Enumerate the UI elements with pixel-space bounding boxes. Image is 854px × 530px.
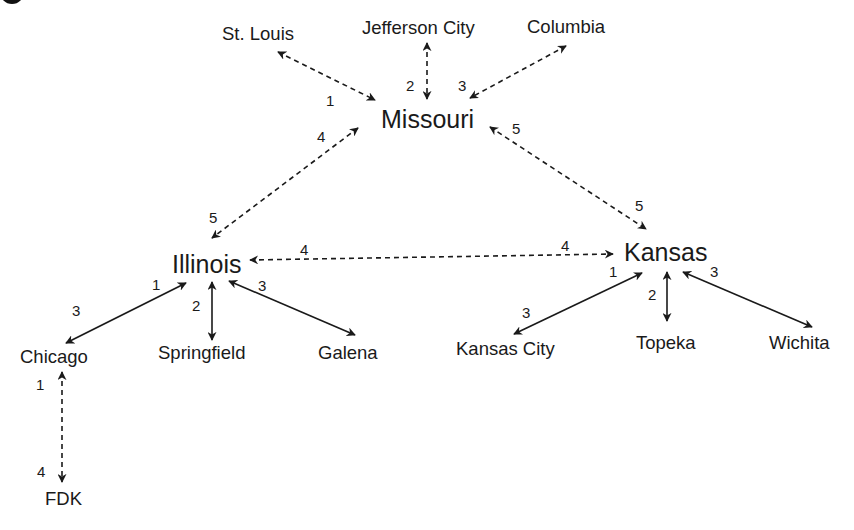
edge-number: 4 bbox=[37, 464, 45, 479]
edge-missouri-kansas bbox=[490, 127, 646, 229]
node-illinois: Illinois bbox=[172, 252, 241, 277]
edge-illinois-chicago bbox=[66, 283, 186, 343]
edge-number: 2 bbox=[192, 298, 200, 313]
node-kansas-city: Kansas City bbox=[456, 340, 555, 359]
node-st-louis: St. Louis bbox=[222, 25, 294, 44]
node-chicago: Chicago bbox=[20, 348, 88, 367]
edges-layer bbox=[0, 0, 854, 530]
edge-number: 3 bbox=[458, 78, 466, 93]
edge-number: 1 bbox=[152, 277, 160, 292]
edge-number: 3 bbox=[522, 305, 530, 320]
edge-missouri-illinois bbox=[212, 128, 358, 238]
edge-number: 5 bbox=[635, 198, 643, 213]
node-galena: Galena bbox=[318, 344, 378, 363]
edge-number: 1 bbox=[36, 377, 44, 392]
edge-kansas-wichita bbox=[683, 272, 812, 327]
edge-number: 3 bbox=[72, 303, 80, 318]
edge-number: 2 bbox=[406, 78, 414, 93]
edge-number: 5 bbox=[512, 121, 520, 136]
node-wichita: Wichita bbox=[769, 334, 830, 353]
node-kansas: Kansas bbox=[624, 240, 707, 265]
node-topeka: Topeka bbox=[636, 334, 696, 353]
edge-number: 1 bbox=[609, 264, 617, 279]
edge-illinois-galena bbox=[229, 281, 355, 335]
edge-number: 3 bbox=[710, 264, 718, 279]
node-jefferson-city: Jefferson City bbox=[362, 19, 475, 38]
edge-columbia-missouri bbox=[470, 46, 566, 98]
edge-kansas-kansascity bbox=[514, 273, 642, 334]
edge-number: 1 bbox=[326, 93, 334, 108]
edge-number: 5 bbox=[209, 210, 217, 225]
node-fdk: FDK bbox=[45, 490, 82, 509]
network-diagram: Missouri Illinois Kansas St. Louis Jeffe… bbox=[0, 0, 854, 530]
edge-number: 4 bbox=[317, 129, 325, 144]
edge-number: 4 bbox=[300, 242, 308, 257]
node-springfield: Springfield bbox=[158, 344, 245, 363]
node-missouri: Missouri bbox=[381, 107, 474, 132]
edge-number: 4 bbox=[561, 238, 569, 253]
edge-number: 2 bbox=[648, 287, 656, 302]
edge-number: 3 bbox=[258, 278, 266, 293]
node-columbia: Columbia bbox=[527, 18, 605, 37]
